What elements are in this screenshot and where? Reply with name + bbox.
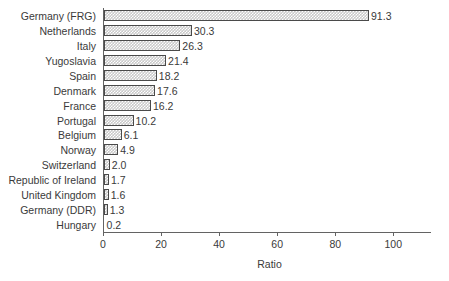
category-label: Portugal xyxy=(0,114,96,128)
category-label: Switzerland xyxy=(0,158,96,172)
category-label: Netherlands xyxy=(0,24,96,38)
bar-value-label: 1.6 xyxy=(111,188,126,202)
bar-row: Norway4.9 xyxy=(0,142,449,158)
bar xyxy=(104,115,134,126)
category-label: Yugoslavia xyxy=(0,54,96,68)
x-axis-title-label: Ratio xyxy=(257,257,282,271)
bar xyxy=(104,174,109,185)
bar xyxy=(104,129,122,140)
bar-row: United Kingdom1.6 xyxy=(0,187,449,203)
x-tick-label: 100 xyxy=(373,237,413,251)
bar-value-label: 17.6 xyxy=(157,84,177,98)
x-tick-label: 0 xyxy=(83,237,123,251)
bar-value-label: 10.2 xyxy=(136,114,156,128)
bar xyxy=(104,10,369,21)
bar-row: Portugal10.2 xyxy=(0,113,449,129)
bar xyxy=(104,159,110,170)
bar-row: France16.2 xyxy=(0,98,449,114)
x-tick-label: 80 xyxy=(315,237,355,251)
bar-value-label: 16.2 xyxy=(153,99,173,113)
bar xyxy=(104,55,166,66)
x-tick-mark xyxy=(103,232,104,236)
category-label: Germany (FRG) xyxy=(0,9,96,23)
bar-row: Republic of Ireland1.7 xyxy=(0,172,449,188)
bar-value-label: 2.0 xyxy=(112,158,127,172)
category-label: France xyxy=(0,99,96,113)
bar xyxy=(104,100,151,111)
bar-value-label: 1.7 xyxy=(111,173,126,187)
bar xyxy=(104,25,192,36)
bar xyxy=(104,204,108,215)
bar-row: Belgium6.1 xyxy=(0,127,449,143)
bar xyxy=(104,189,109,200)
category-label: Germany (DDR) xyxy=(0,203,96,217)
category-label: Belgium xyxy=(0,128,96,142)
category-label: United Kingdom xyxy=(0,188,96,202)
bar-chart: Germany (FRG)91.3Netherlands30.3Italy26.… xyxy=(0,0,449,281)
bar-row: Germany (FRG)91.3 xyxy=(0,8,449,24)
category-label: Norway xyxy=(0,143,96,157)
x-axis-title: Ratio xyxy=(0,257,449,271)
bar-value-label: 4.9 xyxy=(120,143,135,157)
bar-row: Netherlands30.3 xyxy=(0,23,449,39)
bar xyxy=(104,144,118,155)
bar xyxy=(104,40,180,51)
bar-value-label: 91.3 xyxy=(371,9,391,23)
category-label: Spain xyxy=(0,69,96,83)
x-tick-label: 40 xyxy=(199,237,239,251)
category-label: Republic of Ireland xyxy=(0,173,96,187)
x-tick-mark xyxy=(335,232,336,236)
bar-row: Germany (DDR)1.3 xyxy=(0,202,449,218)
bar-value-label: 6.1 xyxy=(124,128,139,142)
bar xyxy=(104,85,155,96)
bar-row: Hungary0.2 xyxy=(0,217,449,233)
x-tick-label: 20 xyxy=(141,237,181,251)
category-label: Hungary xyxy=(0,218,96,232)
category-label: Italy xyxy=(0,39,96,53)
bar xyxy=(104,70,157,81)
category-label: Denmark xyxy=(0,84,96,98)
bar-row: Italy26.3 xyxy=(0,38,449,54)
bar-value-label: 0.2 xyxy=(107,218,122,232)
bar-row: Denmark17.6 xyxy=(0,83,449,99)
bar-value-label: 1.3 xyxy=(110,203,125,217)
bar-row: Yugoslavia21.4 xyxy=(0,53,449,69)
x-tick-mark xyxy=(277,232,278,236)
x-tick-mark xyxy=(393,232,394,236)
x-tick-mark xyxy=(219,232,220,236)
bar-value-label: 18.2 xyxy=(159,69,179,83)
bar-value-label: 26.3 xyxy=(182,39,202,53)
bar xyxy=(104,219,105,230)
bar-row: Spain18.2 xyxy=(0,68,449,84)
bar-value-label: 21.4 xyxy=(168,54,188,68)
bar-value-label: 30.3 xyxy=(194,24,214,38)
bar-row: Switzerland2.0 xyxy=(0,157,449,173)
x-tick-label: 60 xyxy=(257,237,297,251)
x-tick-mark xyxy=(161,232,162,236)
